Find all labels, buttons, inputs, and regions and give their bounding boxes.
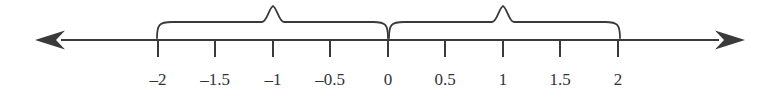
tick-label: 2 [614, 71, 623, 88]
arrow-right-icon [715, 31, 745, 50]
tick-label: 1.5 [549, 71, 570, 88]
tick-label: 0 [384, 71, 393, 88]
tick-marks-group [158, 40, 618, 57]
tick-label: –2 [150, 71, 167, 88]
tick-label: –1 [265, 71, 282, 88]
tick-label: –0.5 [315, 71, 345, 88]
braces-group [157, 6, 620, 38]
number-line-figure: –2–1.5–1–0.500.511.52 [0, 0, 781, 99]
tick-label: 0.5 [434, 71, 455, 88]
arrow-left-icon [35, 31, 65, 50]
tick-label: –1.5 [200, 71, 230, 88]
brace-negative [157, 6, 388, 38]
brace-positive [389, 6, 620, 38]
tick-label: 1 [499, 71, 508, 88]
